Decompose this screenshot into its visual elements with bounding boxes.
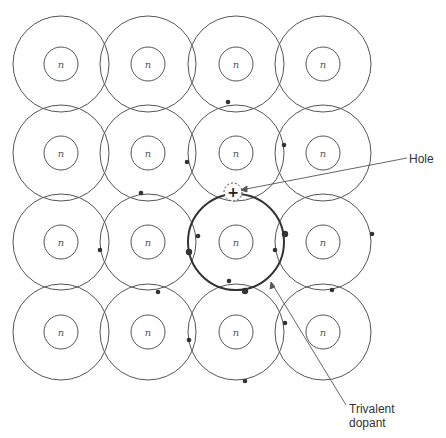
silicon-atom: n [275,284,371,380]
silicon-atom: n [13,16,109,112]
electron-dot [282,143,287,148]
covalent-lattice-diagram: nnnnnnnnnnnnnnn n + Hole Trivalent dopan… [0,0,446,438]
trivalent-label-line1: Trivalent [349,402,395,416]
silicon-atom: n [13,105,109,201]
electron-dot [282,231,288,237]
nucleus-label: n [58,327,64,338]
lattice-svg: nnnnnnnnnnnnnnn n + Hole Trivalent dopan… [0,0,446,438]
nucleus-label: n [58,237,64,248]
electron-dot [185,160,190,165]
electron-dot [242,288,248,294]
silicon-atom: n [100,16,196,112]
silicon-atom: n [100,194,196,290]
silicon-atom: n [13,194,109,290]
silicon-atom: n [188,284,284,380]
electron-dot [187,338,192,343]
nucleus-label: n [233,327,239,338]
electron-dot [226,100,231,105]
atom-grid: nnnnnnnnnnnnnnn [13,16,371,380]
nucleus-label: n [233,237,239,248]
electron-dot [139,191,144,196]
nucleus-label: n [320,148,326,159]
electron-dot [330,288,335,293]
electron-dot [273,248,278,253]
dopant-atom-core: n [188,194,284,290]
nucleus-label: n [145,148,151,159]
hole-marker: + [224,183,242,201]
nucleus-label: n [320,237,326,248]
silicon-atom: n [100,105,196,201]
hole-label: Hole [409,152,434,166]
electron-dot [227,279,232,284]
nucleus-label: n [58,148,64,159]
trivalent-label-line2: dopant [349,416,386,430]
electron-dot [98,248,103,253]
hole-plus-icon: + [227,184,239,200]
nucleus-label: n [233,59,239,70]
electron-dot [370,232,375,237]
electron-dot [283,321,288,326]
nucleus-label: n [320,59,326,70]
silicon-atom: n [275,194,371,290]
dopant-atom: n [188,194,284,290]
electron-dot [196,234,201,239]
electron-dot [156,290,161,295]
nucleus-label: n [58,59,64,70]
nucleus-label: n [145,237,151,248]
silicon-atom: n [100,284,196,380]
nucleus-label: n [320,327,326,338]
silicon-atom: n [275,105,371,201]
nucleus-label: n [233,148,239,159]
leader-lines [241,158,407,405]
nucleus-label: n [145,59,151,70]
hole-leader-line [241,158,407,190]
silicon-atom: n [275,16,371,112]
electron-dot [186,249,192,255]
silicon-atom: n [188,16,284,112]
silicon-atom: n [13,284,109,380]
nucleus-label: n [145,327,151,338]
electron-dot [243,379,248,384]
